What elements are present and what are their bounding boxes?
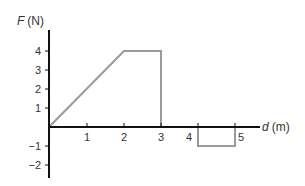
force-distance-chart: 4 3 2 1 −1 −2 1 2 3 4 5 F(N) d(m) <box>0 0 305 186</box>
y-tick-label: −2 <box>28 159 41 171</box>
x-axis-title: d(m) <box>262 120 290 134</box>
y-tick-label: 1 <box>35 102 41 114</box>
y-tick-label: 4 <box>35 45 41 57</box>
y-tick-label: 3 <box>35 64 41 76</box>
x-tick-label: 3 <box>158 131 164 143</box>
y-tick-label: −1 <box>28 140 41 152</box>
x-tick-label: 5 <box>238 131 244 143</box>
x-tick-label: 4 <box>186 131 192 143</box>
x-tick-label: 1 <box>84 131 90 143</box>
y-axis-title: F(N) <box>17 14 44 28</box>
force-curve <box>49 51 235 146</box>
x-tick-label: 2 <box>121 131 127 143</box>
y-tick-label: 2 <box>35 83 41 95</box>
